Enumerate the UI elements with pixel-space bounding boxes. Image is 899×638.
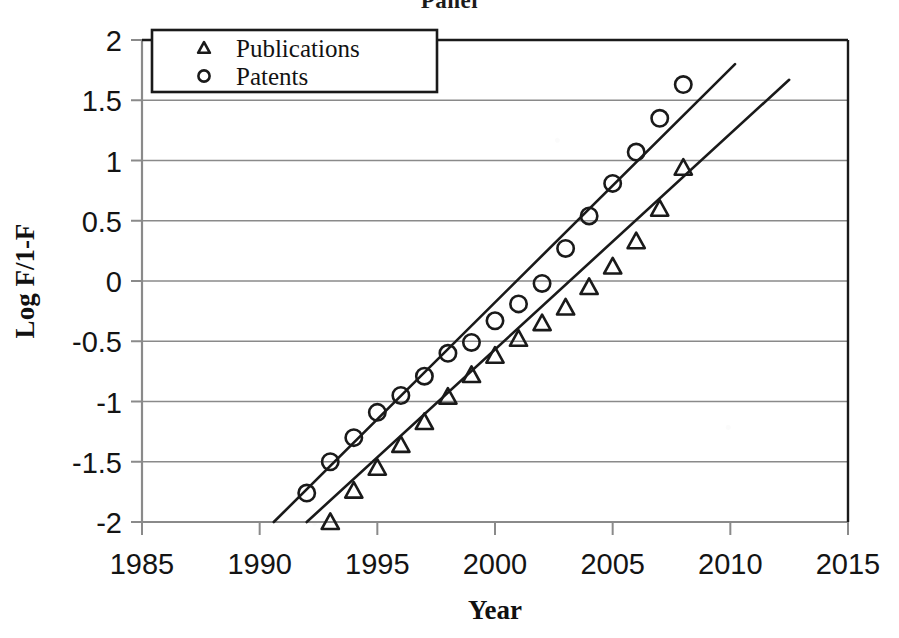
x-tick-label: 1995	[345, 548, 410, 580]
legend-label: Publications	[236, 35, 360, 62]
series-publications-markers	[322, 159, 692, 529]
y-tick-label: -0.5	[72, 326, 122, 358]
data-point-circle	[675, 76, 691, 92]
y-tick-group	[131, 40, 142, 522]
x-tick-label: 1990	[227, 548, 292, 580]
y-tick-label: -1.5	[72, 447, 122, 479]
data-point-circle	[604, 175, 620, 191]
x-tick-label: 1985	[110, 548, 175, 580]
data-point-circle	[652, 110, 668, 126]
y-tick-label: 1.5	[82, 85, 122, 117]
data-point-triangle	[628, 233, 645, 249]
data-point-circle	[463, 334, 479, 350]
data-point-triangle	[675, 159, 692, 175]
x-tick-label: 2015	[816, 548, 881, 580]
data-point-circle	[510, 296, 526, 312]
y-axis-title: Log F/1-F	[10, 224, 40, 339]
y-tick-label: 2	[106, 25, 122, 57]
data-point-circle	[416, 368, 432, 384]
x-tick-label: 2000	[463, 548, 528, 580]
trendlines-group	[274, 64, 789, 522]
trendline-publications	[307, 80, 789, 522]
y-tick-label: -1	[96, 387, 122, 419]
y-tick-label: -2	[96, 507, 122, 539]
data-point-circle	[299, 485, 315, 501]
y-tick-label: 1	[106, 146, 122, 178]
trendline-patents	[274, 64, 735, 522]
data-point-circle	[487, 313, 503, 329]
data-point-circle	[557, 240, 573, 256]
y-tick-labels: 21.510.50-0.5-1-1.5-2	[72, 25, 122, 539]
data-point-triangle	[392, 436, 409, 452]
gridlines-group	[142, 100, 848, 462]
legend-box: PublicationsPatents	[152, 30, 437, 92]
chart-figure: 1985199019952000200520102015 21.510.50-0…	[0, 0, 899, 638]
data-point-triangle	[557, 299, 574, 315]
data-point-circle	[628, 144, 644, 160]
x-tick-label: 2010	[698, 548, 763, 580]
data-point-triangle	[463, 366, 480, 382]
y-tick-label: 0.5	[82, 206, 122, 238]
scatter-plot-svg: 1985199019952000200520102015 21.510.50-0…	[0, 0, 899, 638]
x-tick-labels: 1985199019952000200520102015	[110, 548, 881, 580]
x-axis-title: Year	[468, 595, 522, 625]
y-tick-label: 0	[106, 266, 122, 298]
data-point-triangle	[534, 315, 551, 331]
data-point-circle	[534, 275, 550, 291]
x-tick-group	[142, 522, 848, 535]
data-point-triangle	[604, 258, 621, 274]
x-tick-label: 2005	[580, 548, 645, 580]
legend-label: Patents	[236, 63, 308, 90]
